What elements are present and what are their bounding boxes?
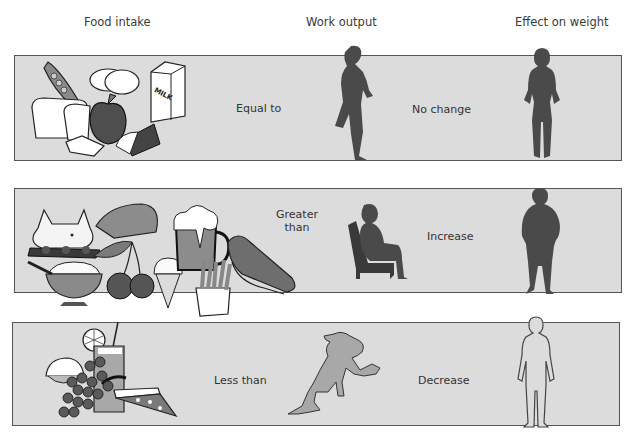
- running-person-icon: [333, 44, 378, 162]
- header-food-intake: Food intake: [84, 15, 151, 29]
- heavy-body-icon: [520, 186, 562, 298]
- effect-label-balanced: No change: [412, 103, 471, 116]
- relation-label-surplus-line1: Greater: [276, 208, 318, 221]
- normal-body-icon: [522, 46, 562, 160]
- sitting-person-icon: [346, 203, 412, 283]
- effect-label-deficit: Decrease: [418, 374, 470, 387]
- relation-label-surplus: Greater than: [276, 208, 318, 234]
- relation-label-deficit: Less than: [214, 374, 267, 387]
- relation-label-balanced: Equal to: [236, 102, 281, 115]
- relation-label-surplus-line2: than: [276, 221, 318, 234]
- milk-carton-icon: MILK: [145, 60, 190, 125]
- sprinting-person-icon: [284, 330, 394, 416]
- effect-label-surplus: Increase: [427, 230, 474, 243]
- header-effect-on-weight: Effect on weight: [515, 15, 609, 29]
- header-work-output: Work output: [306, 15, 377, 29]
- food-group-deficit-icon: [42, 322, 182, 422]
- food-group-surplus-icon: [24, 178, 304, 318]
- thin-body-icon: [516, 315, 556, 431]
